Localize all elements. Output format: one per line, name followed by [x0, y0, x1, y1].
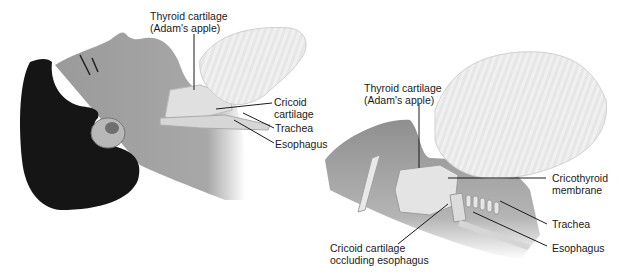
label-line: (Adam's apple) [364, 94, 442, 106]
label-line: Cricoid cartilage [330, 242, 429, 254]
label-thyroid-cartilage-left: Thyroid cartilage (Adam's apple) [150, 10, 228, 34]
label-cricoid-occluding-esophagus: Cricoid cartilage occluding esophagus [330, 242, 429, 266]
label-line: occluding esophagus [330, 254, 429, 266]
label-line: Cricoid [274, 96, 314, 108]
label-line: membrane [552, 184, 608, 196]
label-cricoid-cartilage-left: Cricoid cartilage [274, 96, 314, 120]
left-head-illustration [20, 27, 306, 210]
label-line: cartilage [274, 108, 314, 120]
label-trachea-right: Trachea [552, 218, 590, 230]
hand-left [200, 27, 306, 104]
label-line: Thyroid cartilage [364, 82, 442, 94]
label-line: Cricothyroid [552, 172, 608, 184]
ear [91, 118, 125, 148]
label-thyroid-cartilage-right: Thyroid cartilage (Adam's apple) [364, 82, 442, 106]
label-trachea-left: Trachea [275, 122, 313, 134]
label-cricothyroid-membrane: Cricothyroid membrane [552, 172, 608, 196]
label-line: Thyroid cartilage [150, 10, 228, 22]
hand-right [435, 52, 607, 179]
label-esophagus-right: Esophagus [552, 242, 605, 254]
label-esophagus-left: Esophagus [275, 138, 328, 150]
label-line: (Adam's apple) [150, 22, 228, 34]
